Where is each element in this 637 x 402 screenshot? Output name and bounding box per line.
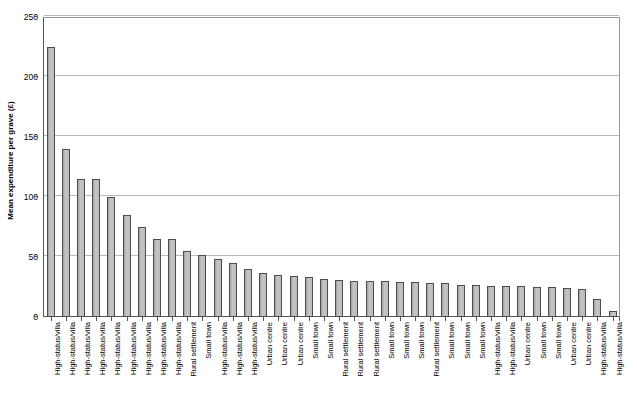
y-tick-mark [34, 196, 38, 197]
bar-slot [210, 17, 225, 317]
bar-chart: Mean expenditure per grave (£) 050100150… [0, 0, 637, 402]
x-label-slot: Urban centre [575, 322, 590, 402]
x-label-slot: Urban centre [256, 322, 271, 402]
bar[interactable] [77, 179, 85, 317]
bar-slot [514, 17, 529, 317]
x-label-slot: Urban centre [271, 322, 286, 402]
bar-slot [392, 17, 407, 317]
x-label-slot: High-status/villa [605, 322, 620, 402]
bar[interactable] [244, 269, 252, 317]
gridline [44, 15, 619, 16]
x-label-slot: Small town [301, 322, 316, 402]
y-tick-mark [34, 316, 38, 317]
x-label-slot: High-status/villa [119, 322, 134, 402]
x-tick-mark [370, 317, 371, 321]
bar[interactable] [472, 285, 480, 317]
x-label-slot: Small town [408, 322, 423, 402]
bar[interactable] [183, 251, 191, 317]
bar-slot [332, 17, 347, 317]
bar[interactable] [487, 286, 495, 317]
bar[interactable] [168, 239, 176, 317]
x-label-slot: Rural settlement [332, 322, 347, 402]
x-tick-mark [582, 317, 583, 321]
bar[interactable] [214, 259, 222, 317]
x-tick-mark [202, 317, 203, 321]
x-label-slot: Small town [544, 322, 559, 402]
x-tick-mark [172, 317, 173, 321]
bar-slot [301, 17, 316, 317]
bar-slot [73, 17, 88, 317]
bar[interactable] [47, 47, 55, 317]
bar[interactable] [441, 283, 449, 317]
bar[interactable] [138, 227, 146, 317]
bar[interactable] [92, 179, 100, 317]
x-label-slot: Small town [468, 322, 483, 402]
bar[interactable] [502, 286, 510, 317]
bar[interactable] [290, 276, 298, 317]
y-tick-label: 150 [4, 133, 38, 141]
bar-slot [347, 17, 362, 317]
bar-slot [377, 17, 392, 317]
x-label-slot: Small town [453, 322, 468, 402]
bar-slot [362, 17, 377, 317]
bar-series [43, 17, 620, 317]
bar[interactable] [274, 275, 282, 317]
bar-slot [271, 17, 286, 317]
bar-slot [590, 17, 605, 317]
x-tick-mark [309, 317, 310, 321]
bar-slot [605, 17, 620, 317]
bar-slot [165, 17, 180, 317]
x-tick-mark [552, 317, 553, 321]
bar[interactable] [62, 149, 70, 317]
bar[interactable] [123, 215, 131, 317]
x-tick-mark [339, 317, 340, 321]
x-tick-mark [415, 317, 416, 321]
x-tick-mark [278, 317, 279, 321]
bar-slot [58, 17, 73, 317]
bar[interactable] [305, 277, 313, 317]
bar[interactable] [198, 255, 206, 317]
bar-slot [134, 17, 149, 317]
bar[interactable] [396, 282, 404, 317]
x-label-slot: High-status/villa [210, 322, 225, 402]
x-label-slot: Urban centre [514, 322, 529, 402]
x-tick-mark [537, 317, 538, 321]
x-label-slot: High-status/villa [58, 322, 73, 402]
x-label-slot: High-status/villa [590, 322, 605, 402]
bar[interactable] [548, 287, 556, 317]
bar[interactable] [457, 285, 465, 317]
bar-slot [559, 17, 574, 317]
bar-slot [499, 17, 514, 317]
bar[interactable] [593, 299, 601, 317]
bar[interactable] [533, 287, 541, 317]
bar[interactable] [517, 286, 525, 317]
bar[interactable] [229, 263, 237, 317]
x-tick-mark [354, 317, 355, 321]
bar[interactable] [153, 239, 161, 317]
x-tick-mark [619, 317, 620, 321]
bar[interactable] [107, 197, 115, 317]
bar-slot [453, 17, 468, 317]
x-tick-mark [233, 317, 234, 321]
x-label-slot: Small town [316, 322, 331, 402]
x-label-slot: Urban centre [559, 322, 574, 402]
bar[interactable] [578, 289, 586, 317]
x-tick-mark [81, 317, 82, 321]
x-tick-mark [263, 317, 264, 321]
x-label-slot: High-status/villa [43, 322, 58, 402]
x-tick-mark [142, 317, 143, 321]
bar-slot [225, 17, 240, 317]
bar[interactable] [563, 288, 571, 317]
bar[interactable] [381, 281, 389, 317]
bar[interactable] [320, 279, 328, 317]
bar[interactable] [411, 282, 419, 317]
x-axis-labels: High-status/villaHigh-status/villaHigh-s… [43, 322, 620, 402]
x-tick-mark [430, 317, 431, 321]
bar[interactable] [426, 283, 434, 317]
bar[interactable] [366, 281, 374, 317]
x-tick-mark [111, 317, 112, 321]
y-tick-label: 250 [4, 13, 38, 21]
bar[interactable] [350, 281, 358, 317]
bar[interactable] [259, 273, 267, 317]
bar[interactable] [335, 280, 343, 317]
